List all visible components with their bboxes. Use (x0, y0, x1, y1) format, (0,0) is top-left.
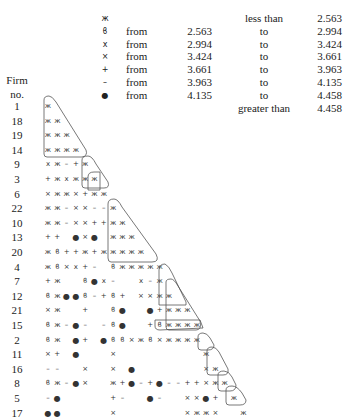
cluster-outline-4 (108, 199, 157, 262)
cluster-outline-8 (198, 333, 214, 350)
cluster-outline-11 (226, 386, 246, 405)
cluster-outline-1 (44, 96, 87, 157)
cluster-outline-5 (159, 264, 186, 305)
cluster-outline-7 (155, 320, 203, 330)
cluster-outline-6 (166, 279, 201, 330)
cluster-outline-3 (88, 172, 100, 190)
